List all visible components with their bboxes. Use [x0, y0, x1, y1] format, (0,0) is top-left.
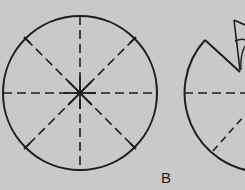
- right-circle-arc: [185, 40, 245, 172]
- cut-edge: [205, 40, 240, 72]
- diagram-canvas: [0, 0, 245, 190]
- cone-flap-edge: [234, 20, 240, 70]
- cone-flap-curve-2: [241, 46, 245, 70]
- right-fold-diagonal: [213, 115, 245, 151]
- figure-label: B: [161, 170, 171, 185]
- cone-flap-top: [234, 20, 245, 25]
- left-circle-diagram: [3, 16, 157, 170]
- right-cone-diagram: [184, 20, 245, 172]
